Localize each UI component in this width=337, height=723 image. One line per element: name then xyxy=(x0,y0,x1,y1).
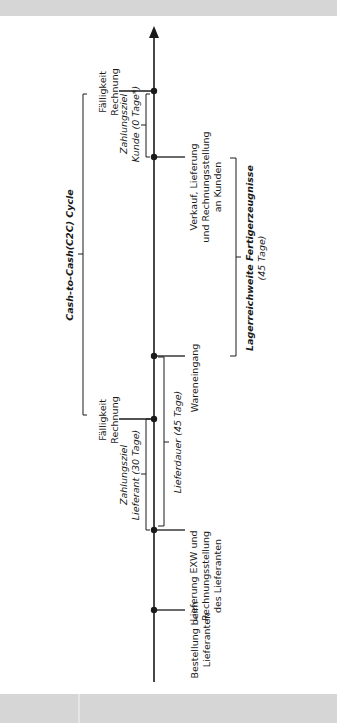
event-verkauf: Verkauf, Lieferung und Rechnungsstellung… xyxy=(188,131,224,242)
label-line: Verkauf, Lieferung xyxy=(188,131,200,242)
event-wareneingang: Wareneingang xyxy=(189,344,201,413)
label-line: (45 Tage) xyxy=(256,165,268,351)
label-line: Lagerreichweite Fertigerzeugnisse xyxy=(244,165,256,351)
span-lagerreichweite: Lagerreichweite Fertigerzeugnisse (45 Ta… xyxy=(244,165,268,351)
event-lieferung: Lieferung EXW und Rechnungsstellung des … xyxy=(188,531,224,622)
span-zahlungsziel-lieferant: Zahlungsziel Lieferant (30 Tage) xyxy=(118,430,142,520)
label-line: Fälligkeit xyxy=(97,68,109,115)
label-line: und Rechnungsstellung xyxy=(200,131,212,242)
label-line: Rechnungsstellung xyxy=(200,531,212,622)
axis-arrow-icon xyxy=(149,26,159,38)
span-c2c-cycle: Cash-to-Cash(C2C) Cycle xyxy=(64,189,76,321)
span-lieferdauer: Lieferdauer (45 Tage) xyxy=(172,391,184,494)
label-line: des Lieferanten xyxy=(212,531,224,622)
label-line: Kunde (0 Tage*) xyxy=(130,86,142,163)
label-line: Lieferdauer (45 Tage) xyxy=(172,391,184,494)
label-line: Zahlungsziel xyxy=(118,430,130,520)
label-line: Zahlungsziel xyxy=(118,86,130,163)
label-line: Lieferant (30 Tage) xyxy=(130,430,142,520)
span-zahlungsziel-kunde: Zahlungsziel Kunde (0 Tage*) xyxy=(118,86,142,163)
label-line: Wareneingang xyxy=(189,344,201,413)
label-line: Lieferung EXW und xyxy=(188,531,200,622)
label-line: Fälligkeit xyxy=(97,396,109,443)
timeline-diagram xyxy=(0,0,337,723)
label-line: an Kunden xyxy=(212,131,224,242)
diagram-title: Cash-to-Cash(C2C) Cycle xyxy=(64,189,76,321)
